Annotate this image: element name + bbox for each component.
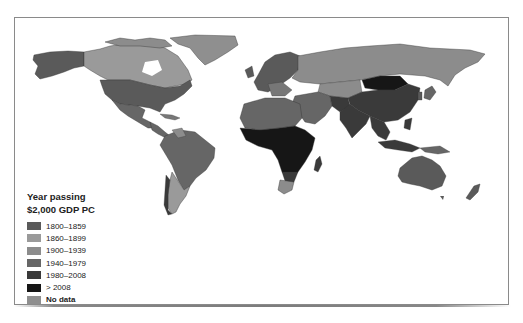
- map-legend: Year passing $2,000 GDP PC 1800–1859 186…: [27, 190, 95, 306]
- region-alaska: [33, 51, 84, 79]
- legend-swatch: [27, 259, 41, 267]
- region-canada: [84, 43, 192, 88]
- region-south-africa: [278, 180, 294, 194]
- region-japan: [424, 86, 436, 100]
- legend-swatch: [27, 222, 41, 230]
- legend-swatch: [27, 247, 41, 255]
- legend-item: 1940–1979: [27, 257, 95, 269]
- legend-label: No data: [46, 295, 75, 304]
- region-north-africa: [240, 98, 302, 130]
- region-new-zealand: [466, 184, 480, 200]
- legend-label: 1900–1939: [46, 246, 86, 255]
- legend-title-line2: $2,000 GDP PC: [27, 203, 95, 216]
- legend-label: 1800–1859: [46, 222, 86, 231]
- legend-title-line1: Year passing: [27, 190, 95, 203]
- legend-swatch: [27, 284, 41, 292]
- legend-swatch: [27, 234, 41, 242]
- region-australia: [398, 156, 446, 190]
- legend-label: 1980–2008: [46, 271, 86, 280]
- region-sub-saharan-africa: [240, 126, 315, 178]
- legend-item: > 2008: [27, 281, 95, 293]
- legend-swatch: [27, 271, 41, 279]
- legend-label: 1940–1979: [46, 259, 86, 268]
- legend-label: 1860–1899: [46, 234, 86, 243]
- legend-item: 1900–1939: [27, 245, 95, 257]
- legend-item: 1980–2008: [27, 269, 95, 281]
- legend-swatch: [27, 296, 41, 304]
- legend-item: 1800–1859: [27, 220, 95, 232]
- legend-item: 1860–1899: [27, 232, 95, 244]
- legend-label: > 2008: [46, 283, 71, 292]
- legend-item: No data: [27, 294, 95, 306]
